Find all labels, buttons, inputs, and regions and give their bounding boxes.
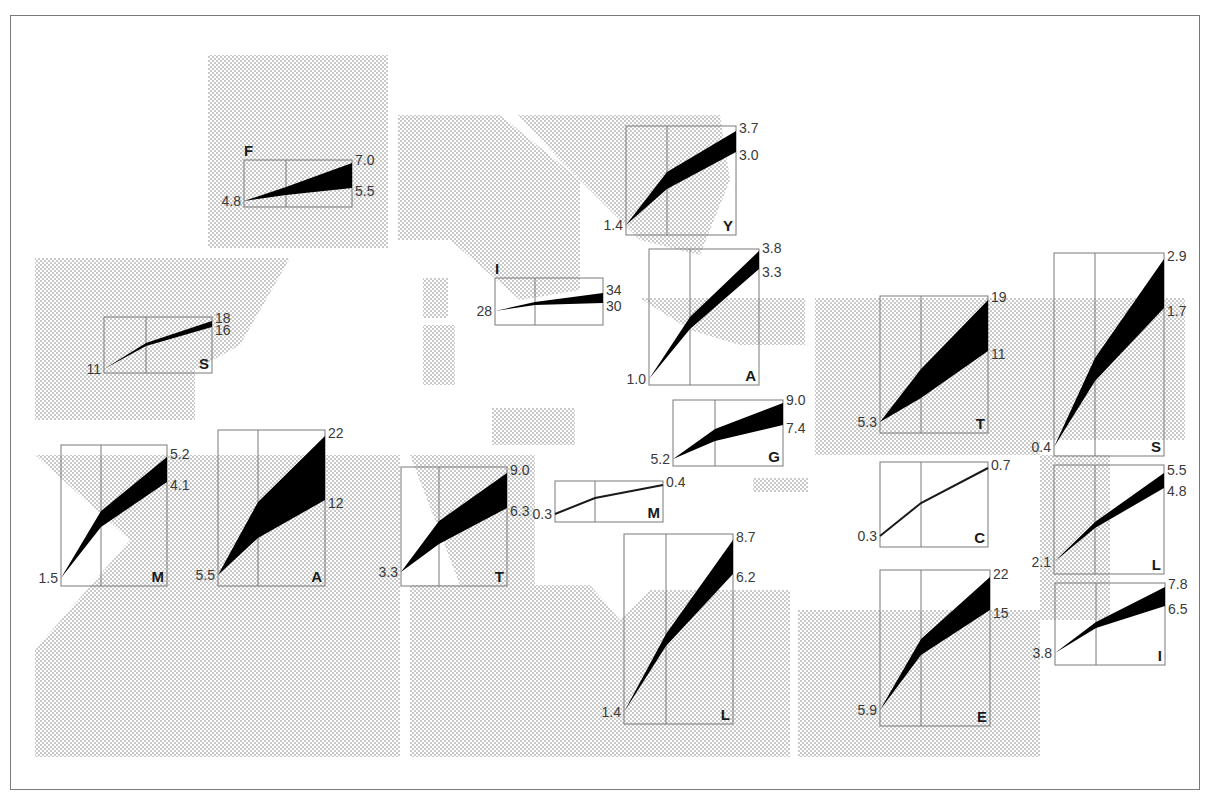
low-value: 6.5	[1168, 601, 1188, 617]
country-label: M	[152, 568, 165, 585]
start-value: 0.3	[858, 528, 878, 544]
country-label: S	[1151, 438, 1161, 455]
start-value: 1.4	[602, 704, 622, 720]
high-value: 7.8	[1168, 576, 1188, 592]
start-value: 1.5	[39, 570, 59, 586]
start-value: 1.0	[627, 371, 647, 387]
region-egypt	[798, 610, 1040, 757]
country-label: A	[311, 568, 322, 585]
country-label: G	[768, 448, 780, 465]
high-value: 22	[328, 425, 344, 441]
high-value: 0.7	[991, 457, 1011, 473]
start-value: 28	[476, 303, 492, 319]
panel-border	[880, 462, 988, 547]
country-label: L	[721, 706, 730, 723]
country-label: C	[974, 529, 985, 546]
region-island-1	[423, 278, 448, 318]
country-label: I	[1158, 647, 1162, 664]
high-value: 19	[991, 289, 1007, 305]
high-value: 9.0	[786, 392, 806, 408]
panel-g: 5.29.07.4G	[651, 392, 806, 467]
country-label: I	[495, 260, 499, 277]
region-island-4	[753, 478, 808, 492]
low-value: 6.3	[510, 503, 530, 519]
low-value: 30	[606, 298, 622, 314]
high-value: 2.9	[1167, 248, 1187, 264]
low-value: 7.4	[786, 420, 806, 436]
high-value: 8.7	[736, 529, 756, 545]
start-value: 3.8	[1033, 645, 1053, 661]
start-value: 11	[86, 361, 101, 377]
country-label: T	[495, 568, 504, 585]
high-value: 5.5	[1167, 462, 1187, 478]
start-value: 2.1	[1032, 554, 1052, 570]
region-balkans	[640, 298, 805, 345]
region-island-5	[358, 232, 370, 245]
low-value: 4.8	[1167, 483, 1187, 499]
low-value: 1.7	[1167, 303, 1187, 319]
high-value: 7.0	[355, 152, 375, 168]
panel-c: 0.30.7C	[858, 457, 1011, 547]
low-value: 11	[991, 346, 1006, 362]
country-label: M	[648, 504, 661, 521]
start-value: 5.2	[651, 451, 671, 467]
high-value: 9.0	[510, 462, 530, 478]
high-value: 0.4	[666, 474, 686, 490]
start-value: 0.3	[533, 506, 553, 522]
low-value: 3.0	[739, 147, 759, 163]
low-value: 16	[215, 322, 231, 338]
low-value: 3.3	[762, 264, 782, 280]
high-value: 3.7	[739, 120, 759, 136]
low-value: 5.5	[355, 183, 375, 199]
start-value: 5.9	[858, 702, 878, 718]
start-value: 4.8	[222, 193, 242, 209]
start-value: 3.3	[379, 564, 399, 580]
panel-m2: 0.30.4M	[533, 474, 686, 522]
high-value: 5.2	[170, 446, 190, 462]
country-label: F	[244, 142, 253, 159]
start-value: 1.4	[604, 217, 624, 233]
high-value: 34	[606, 282, 622, 298]
high-value: 3.8	[762, 240, 782, 256]
start-value: 0.4	[1032, 439, 1052, 455]
country-label: T	[976, 415, 985, 432]
country-label: E	[977, 708, 987, 725]
country-label: L	[1152, 556, 1161, 573]
range-band	[495, 293, 603, 311]
start-value: 5.3	[858, 414, 878, 430]
land-regions	[35, 55, 1185, 757]
high-value: 22	[993, 566, 1009, 582]
country-label: S	[199, 355, 209, 372]
range-band	[673, 403, 783, 459]
trend-line	[880, 468, 988, 536]
low-value: 15	[993, 605, 1009, 621]
low-value: 6.2	[736, 569, 756, 585]
region-island-3	[492, 408, 575, 445]
start-value: 5.5	[196, 567, 216, 583]
region-island-2	[423, 325, 455, 385]
low-value: 4.1	[170, 477, 190, 493]
map-chart: 4.87.05.5F111816S283430I1.43.73.0Y1.03.8…	[0, 0, 1213, 803]
region-levant	[1040, 455, 1110, 620]
country-label: A	[745, 367, 756, 384]
low-value: 12	[328, 495, 344, 511]
country-label: Y	[723, 217, 733, 234]
